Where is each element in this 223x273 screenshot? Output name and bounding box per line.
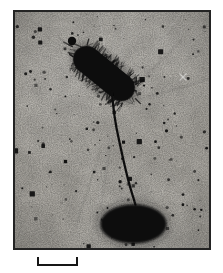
electron-micrograph [15, 12, 209, 248]
micrograph-frame [13, 10, 211, 250]
figure-page: { "window": { "background": "#ffffff" },… [0, 0, 223, 273]
film-vignette [15, 12, 209, 248]
scale-bar [37, 257, 78, 266]
